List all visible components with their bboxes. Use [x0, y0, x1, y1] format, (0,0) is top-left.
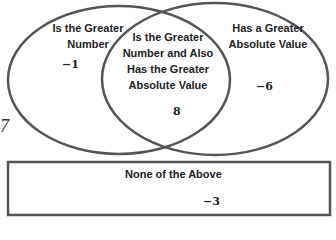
intersection-value: 8 — [173, 105, 181, 118]
outside-value: −3 — [203, 195, 220, 208]
left-set-value: −1 — [62, 58, 79, 71]
right-set-label: Has a Greater Absolute Value — [218, 20, 318, 52]
left-label-line-1: Is the Greater — [48, 20, 128, 36]
intersection-label-line-4: Absolute Value — [120, 77, 216, 93]
outside-label: None of the Above — [125, 166, 222, 182]
right-set-value: −6 — [256, 80, 273, 93]
intersection-label-line-2: Number and Also — [120, 45, 216, 61]
stray-mark: 7 — [0, 116, 9, 137]
intersection-label: Is the Greater Number and Also Has the G… — [120, 29, 216, 93]
left-label-line-2: Number — [48, 36, 128, 52]
right-label-line-2: Absolute Value — [218, 36, 318, 52]
intersection-label-line-3: Has the Greater — [120, 61, 216, 77]
left-set-label: Is the Greater Number — [48, 20, 128, 52]
intersection-label-line-1: Is the Greater — [120, 29, 216, 45]
right-label-line-1: Has a Greater — [218, 20, 318, 36]
